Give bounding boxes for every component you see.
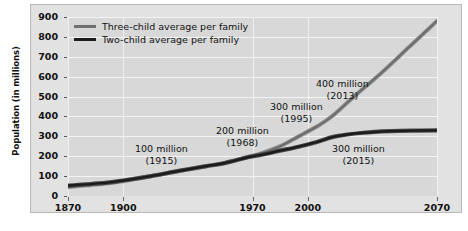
y-tick-mark xyxy=(64,136,67,137)
line-swatch-icon xyxy=(74,38,96,41)
annotation-label: 300 million(1995) xyxy=(270,101,323,124)
y-tick-label: 200 xyxy=(16,150,58,161)
y-tick-label: 600 xyxy=(16,71,58,82)
legend-label: Three-child average per family xyxy=(102,21,248,32)
x-tick-label: 1870 xyxy=(38,202,98,213)
y-tick-mark xyxy=(64,77,67,78)
y-tick-mark xyxy=(64,37,67,38)
y-tick-mark xyxy=(64,156,67,157)
annotation-amount: 300 million xyxy=(332,143,385,155)
population-projection-chart: Population (in millions) 010020030040050… xyxy=(0,0,468,231)
y-tick-label: 500 xyxy=(16,91,58,102)
annotation-amount: 100 million xyxy=(135,143,188,155)
y-tick-label: 900 xyxy=(16,11,58,22)
x-tick-label: 1970 xyxy=(223,202,283,213)
annotation-label: 200 million(1968) xyxy=(216,125,269,148)
y-tick-mark xyxy=(64,116,67,117)
y-tick-mark xyxy=(64,97,67,98)
y-tick-label: 100 xyxy=(16,170,58,181)
x-tick-mark xyxy=(123,197,124,201)
y-tick-label: 700 xyxy=(16,51,58,62)
annotation-year: (1915) xyxy=(135,155,188,167)
x-tick-mark xyxy=(68,197,69,201)
annotation-label: 100 million(1915) xyxy=(135,143,188,166)
line-swatch-icon xyxy=(74,25,96,28)
x-tick-mark xyxy=(253,197,254,201)
y-tick-label: 0 xyxy=(16,190,58,201)
legend-item-three-child: Three-child average per family xyxy=(74,20,248,33)
x-tick-mark xyxy=(437,197,438,201)
x-tick-label: 1900 xyxy=(93,202,153,213)
x-tick-label: 2070 xyxy=(407,202,467,213)
annotation-year: (2015) xyxy=(332,155,385,167)
annotation-amount: 200 million xyxy=(216,125,269,137)
annotation-label: 400 million(2013) xyxy=(316,78,369,101)
y-tick-mark xyxy=(64,196,67,197)
annotation-year: (1968) xyxy=(216,137,269,149)
gridline-vertical xyxy=(437,17,438,196)
annotation-label: 300 million(2015) xyxy=(332,143,385,166)
annotation-amount: 400 million xyxy=(316,78,369,90)
annotation-amount: 300 million xyxy=(270,101,323,113)
x-tick-label: 2000 xyxy=(278,202,338,213)
y-tick-label: 800 xyxy=(16,31,58,42)
y-tick-mark xyxy=(64,176,67,177)
chart-legend: Three-child average per family Two-child… xyxy=(74,20,248,46)
annotation-year: (2013) xyxy=(316,90,369,102)
x-tick-mark xyxy=(308,197,309,201)
y-tick-mark xyxy=(64,17,67,18)
y-tick-label: 400 xyxy=(16,110,58,121)
annotation-year: (1995) xyxy=(270,113,323,125)
y-tick-mark xyxy=(64,57,67,58)
legend-label: Two-child average per family xyxy=(102,34,239,45)
legend-item-two-child: Two-child average per family xyxy=(74,33,248,46)
y-tick-label: 300 xyxy=(16,130,58,141)
